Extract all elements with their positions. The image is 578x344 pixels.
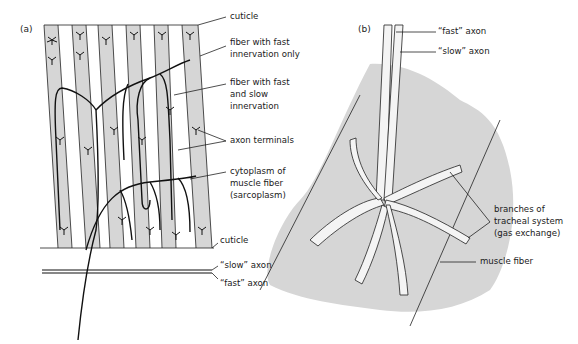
label-muscle-fiber: muscle fiber — [480, 256, 533, 267]
panel-a-muscle-block — [40, 17, 226, 340]
label-slow-axon-b: “slow” axon — [438, 46, 490, 57]
label-tracheal-line2: tracheal system — [494, 216, 563, 227]
panel-b-muscle-fiber — [260, 25, 513, 326]
label-fast-slow-line3: innervation — [230, 101, 279, 112]
panel-a-label: (a) — [20, 24, 33, 34]
label-cuticle-top: cuticle — [230, 11, 258, 22]
panel-b-label: (b) — [358, 24, 371, 34]
label-fast-slow-line2: and slow — [230, 89, 268, 100]
label-fast-axon-a: “fast” axon — [220, 278, 268, 289]
label-tracheal-line1: branches of — [494, 204, 545, 215]
label-cytoplasm-line3: (sarcoplasm) — [230, 190, 286, 201]
label-cytoplasm-line2: muscle fiber — [230, 178, 283, 189]
label-slow-axon-a: “slow” axon — [220, 260, 272, 271]
label-fast-only-line2: innervation only — [230, 49, 300, 60]
label-axon-terminals: axon terminals — [230, 135, 294, 146]
label-fast-slow-line1: fiber with fast — [230, 77, 290, 88]
label-cuticle-bottom: cuticle — [220, 235, 248, 246]
label-fast-only-line1: fiber with fast — [230, 37, 290, 48]
label-fast-axon-b: “fast” axon — [438, 26, 486, 37]
label-cytoplasm-line1: cytoplasm of — [230, 166, 285, 177]
label-tracheal-line3: (gas exchange) — [494, 228, 560, 239]
